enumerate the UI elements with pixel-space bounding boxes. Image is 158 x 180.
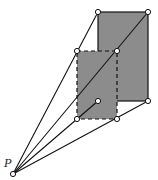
vertex-front-br — [114, 116, 119, 121]
vertex-front-tr — [114, 48, 119, 53]
point-p-label: P — [4, 157, 11, 170]
projection-diagram — [0, 0, 158, 180]
vertex-back-br — [145, 98, 150, 103]
vertex-back-tl — [95, 9, 100, 14]
ray-back-bl — [13, 101, 98, 174]
vertex-p — [10, 171, 15, 176]
vertex-back-tr — [145, 9, 150, 14]
vertex-back-bl — [95, 98, 100, 103]
vertex-front-tl — [74, 48, 79, 53]
vertex-front-bl — [74, 116, 79, 121]
front-rectangle — [77, 51, 117, 119]
